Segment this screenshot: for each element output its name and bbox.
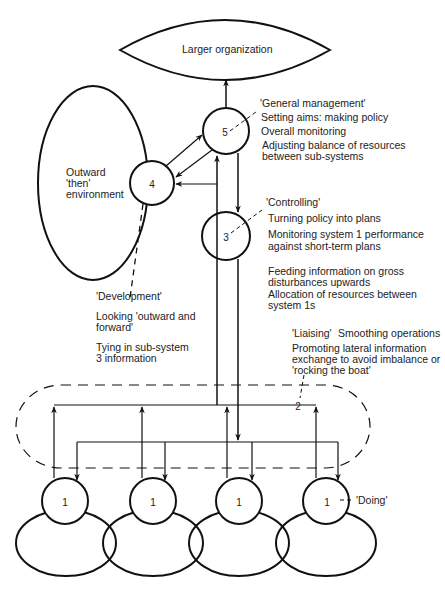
arrow-5-to-4 <box>176 150 212 177</box>
system-2-boundary <box>16 385 370 468</box>
system3-line-2: Monitoring system 1 performance <box>268 229 424 240</box>
system2-line-3: 'rocking the boat' <box>292 365 371 376</box>
system3-line-1: Turning policy into plans <box>268 213 381 224</box>
doing-label: 'Doing' <box>356 495 387 506</box>
system-1-number-b: 1 <box>150 497 156 508</box>
larger-organization-label: Larger organization <box>182 44 272 55</box>
liaising-leader <box>300 375 304 398</box>
system3-line-3: against short-term plans <box>268 241 381 252</box>
environment-label: Outward 'then' environment <box>66 167 124 200</box>
system-1-number-d: 1 <box>324 497 330 508</box>
system-1-number-a: 1 <box>62 497 68 508</box>
liaising-subheading: Smoothing operations <box>338 328 440 339</box>
system5-line-2: Overall monitoring <box>261 126 346 137</box>
system4-line-2: forward' <box>96 322 133 333</box>
system3-line-5: disturbances upwards <box>268 277 370 288</box>
system4-line-4: 3 information <box>96 353 157 364</box>
controlling-heading: 'Controlling' <box>266 197 320 208</box>
system-2-number: 2 <box>295 401 301 412</box>
system-3-number: 3 <box>223 232 229 243</box>
general-management-heading: 'General management' <box>260 98 366 109</box>
development-heading: 'Development' <box>96 291 162 302</box>
system5-line-4: between sub-systems <box>262 151 364 162</box>
liaising-heading: 'Liaising' <box>292 328 332 339</box>
system5-line-1: Setting aims: making policy <box>261 112 388 123</box>
system-1-number-c: 1 <box>236 497 242 508</box>
system3-line-7: system 1s <box>268 300 315 311</box>
system-4-number: 4 <box>149 179 155 190</box>
system-5-number: 5 <box>222 127 228 138</box>
environment-line-3: environment <box>66 189 124 200</box>
